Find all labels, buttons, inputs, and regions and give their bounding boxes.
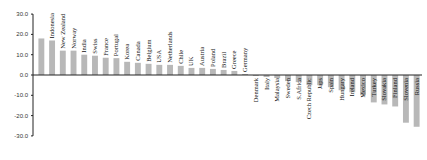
category-label: Spain xyxy=(327,77,334,93)
bar xyxy=(124,62,130,75)
category-label: Slovakia xyxy=(380,78,387,101)
bar xyxy=(199,68,205,75)
y-tick-label: 20.0 xyxy=(16,31,28,37)
bar xyxy=(81,55,87,75)
category-label: Hungary xyxy=(338,77,345,100)
y-axis: 30.020.010.00.0-10.0-20.0-30.0 xyxy=(14,11,33,139)
category-label: Netherlands xyxy=(166,31,173,63)
bar xyxy=(113,58,119,75)
category-label: Poland xyxy=(209,48,216,67)
category-label: S.Africa xyxy=(295,78,302,100)
category-label: Korea xyxy=(123,44,130,60)
category-label: Portugal xyxy=(112,34,119,56)
bar xyxy=(38,38,44,75)
category-label: UK xyxy=(187,56,194,66)
bar xyxy=(103,58,109,75)
category-label: Germany xyxy=(241,47,248,72)
category-label: USA xyxy=(155,50,162,63)
category-label: Ireland xyxy=(348,77,355,96)
category-label: Slovenia xyxy=(402,78,409,101)
bar xyxy=(146,64,152,75)
bar-chart: 30.020.010.00.0-10.0-20.0-30.0 Indonesia… xyxy=(0,0,427,160)
bar xyxy=(49,40,55,75)
category-label: Malaysia xyxy=(273,78,280,102)
y-tick-label: 10.0 xyxy=(16,52,28,58)
category-label: Russia xyxy=(413,78,420,95)
category-label: Japs xyxy=(316,78,323,90)
y-tick-label: -30.0 xyxy=(14,133,28,139)
bar xyxy=(221,70,227,75)
bar xyxy=(189,68,195,75)
category-label: Chile xyxy=(177,50,184,64)
y-tick-label: -10.0 xyxy=(14,92,28,98)
category-label: Canada xyxy=(134,41,141,61)
category-label: Indonesia xyxy=(48,13,55,38)
y-tick-label: 0.0 xyxy=(20,72,29,78)
category-label: Austria xyxy=(198,47,205,66)
category-label: Swiss xyxy=(91,38,98,54)
category-label: Finland xyxy=(391,77,398,98)
category-label: India xyxy=(80,39,87,52)
category-label: Denmark xyxy=(252,77,259,102)
category-label: Turkey xyxy=(370,77,377,96)
category-label: France xyxy=(102,38,109,56)
bar xyxy=(231,71,237,75)
bar xyxy=(60,51,66,75)
y-tick-label: 30.0 xyxy=(16,11,28,17)
category-label: Belgium xyxy=(145,39,152,61)
bar xyxy=(71,51,77,75)
category-label: Mexico xyxy=(359,78,366,98)
category-label: Greece xyxy=(230,50,237,69)
bar xyxy=(156,65,162,75)
category-label: New Zealand xyxy=(59,13,66,49)
category-label: Sweden xyxy=(284,77,291,98)
bar xyxy=(167,65,173,75)
bar xyxy=(178,66,184,75)
bar xyxy=(92,56,98,75)
category-label: Italy xyxy=(263,77,270,90)
bar xyxy=(210,69,216,75)
bar xyxy=(135,63,141,75)
category-label: Brazil xyxy=(220,52,227,68)
category-label: Norway xyxy=(70,27,77,49)
y-tick-label: -20.0 xyxy=(14,113,28,119)
category-label: Czech Republic xyxy=(305,78,312,119)
